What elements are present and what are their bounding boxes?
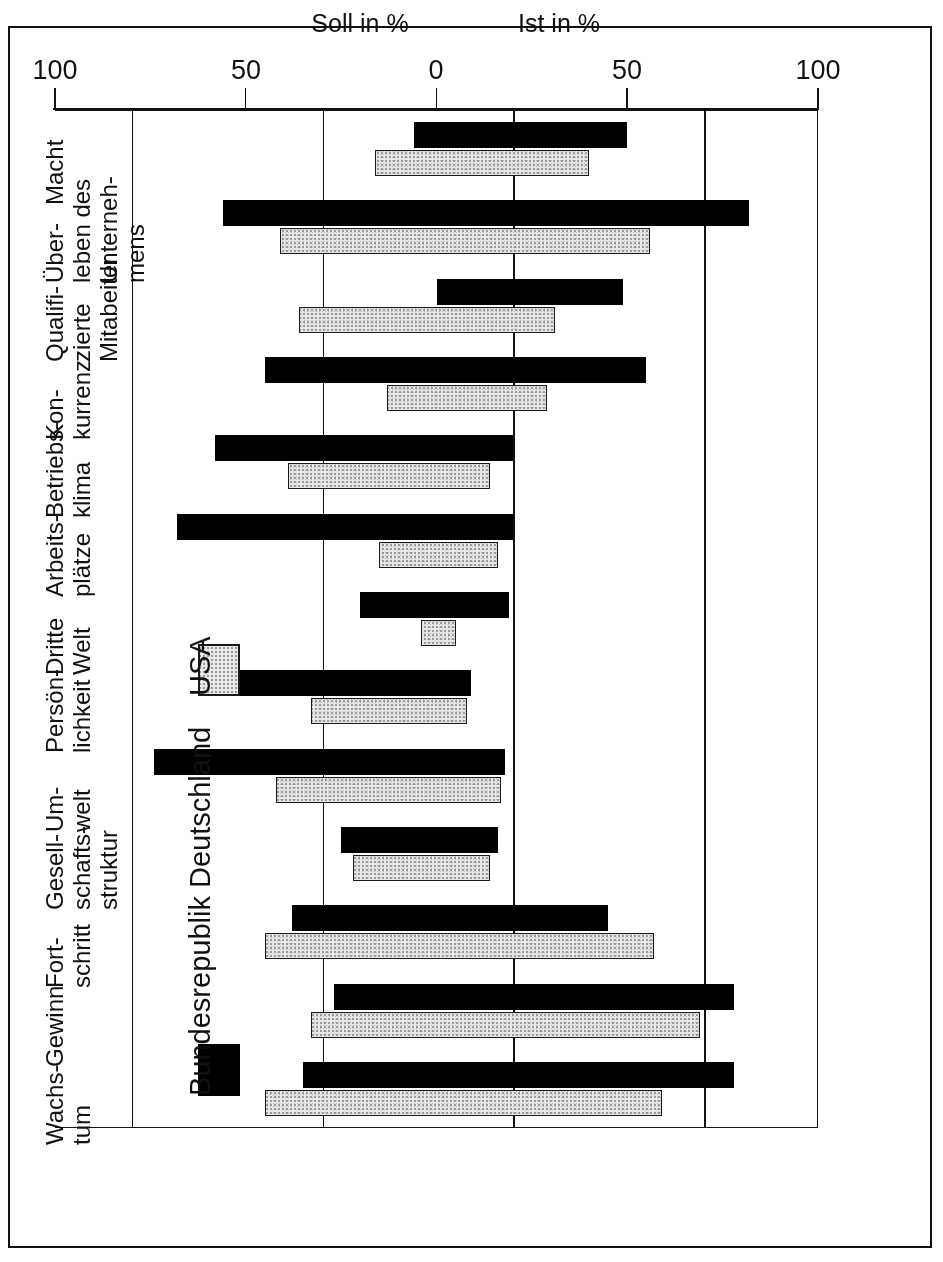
plot-area [55, 110, 818, 1128]
axis-tick-3 [245, 88, 247, 110]
bar-usa-2 [265, 933, 654, 959]
axis-tick-1 [627, 88, 629, 110]
category-label-0: Wachs- tum [41, 1064, 95, 1144]
bar-usa-8 [288, 463, 490, 489]
category-label-1: Gewinn [41, 985, 68, 1066]
axis-tick-0 [817, 88, 819, 110]
bar-germany-11 [223, 200, 749, 226]
gridline-50-1 [514, 111, 516, 1127]
bar-germany-0 [303, 1062, 734, 1088]
bar-usa-6 [421, 620, 455, 646]
bar-usa-3 [353, 855, 490, 881]
bar-germany-7 [177, 514, 513, 540]
category-label-3: Gesell- schafts- struktur [41, 826, 122, 910]
bar-usa-9 [387, 385, 547, 411]
bar-germany-2 [292, 905, 609, 931]
category-label-5: Persön- lichkeit [41, 669, 95, 753]
axis-title-ist: Ist in % [489, 9, 629, 38]
bar-usa-10 [299, 307, 555, 333]
bar-germany-3 [341, 827, 497, 853]
axis-tick-label-1: 50 [587, 55, 667, 86]
bar-usa-4 [276, 777, 501, 803]
bar-germany-6 [360, 592, 509, 618]
category-label-7: Arbeits- plätze [41, 514, 95, 597]
bar-usa-1 [311, 1012, 700, 1038]
legend-label-usa: USA [184, 636, 217, 696]
bar-germany-10 [437, 279, 624, 305]
bar-usa-11 [280, 228, 650, 254]
figure-frame: 10050050100Ist in %Soll in %Wachs- tumGe… [8, 26, 932, 1248]
bar-germany-1 [334, 984, 735, 1010]
bar-usa-5 [311, 698, 467, 724]
axis-tick-4 [54, 88, 56, 110]
legend-label-germany: Bundesrepublik Deutschland [184, 727, 217, 1096]
axis-tick-label-0: 100 [778, 55, 858, 86]
bar-germany-9 [265, 357, 647, 383]
bar-germany-8 [215, 435, 513, 461]
bar-usa-0 [265, 1090, 662, 1116]
rotated-figure-wrapper: 10050050100Ist in %Soll in %Wachs- tumGe… [10, 28, 930, 1246]
chart-figure: 10050050100Ist in %Soll in %Wachs- tumGe… [10, 28, 930, 1246]
gridline-0-2 [323, 111, 325, 1127]
category-label-4: Um- welt [41, 786, 95, 831]
bar-germany-5 [208, 670, 471, 696]
gridline-100-0 [704, 111, 706, 1127]
bar-usa-12 [375, 150, 589, 176]
bar-usa-7 [379, 542, 497, 568]
chart-page: 10050050100Ist in %Soll in %Wachs- tumGe… [0, 0, 943, 1262]
category-label-12: Macht [41, 140, 68, 205]
axis-tick-label-4: 100 [15, 55, 95, 86]
axis-tick-label-3: 50 [206, 55, 286, 86]
axis-tick-2 [436, 88, 438, 110]
category-label-6: Dritte Welt [41, 618, 95, 675]
category-label-9: Kon- kurrenz [41, 360, 95, 440]
axis-title-soll: Soll in % [290, 9, 430, 38]
axis-tick-label-2: 0 [397, 55, 477, 86]
bar-germany-12 [414, 122, 628, 148]
category-label-2: Fort- schritt [41, 924, 95, 988]
